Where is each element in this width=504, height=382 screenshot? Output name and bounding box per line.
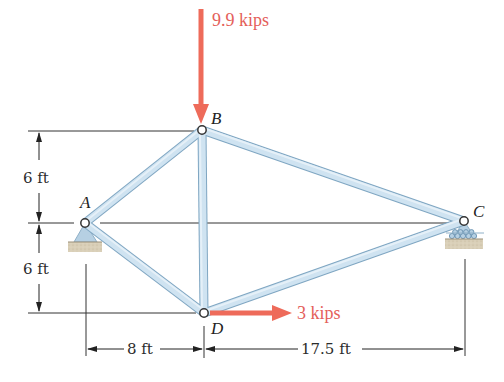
- member-ab: [85, 130, 202, 223]
- node-label-d: D: [210, 319, 224, 338]
- dim-label-vertical-upper: 6 ft: [23, 169, 49, 187]
- dim-label-horizontal-left: 8 ft: [127, 340, 153, 358]
- load-label-b: 9.9 kips: [212, 10, 269, 30]
- joint-d: [200, 309, 208, 317]
- node-label-a: A: [79, 193, 91, 212]
- node-label-c: C: [473, 202, 485, 221]
- member-bc: [202, 130, 464, 221]
- joint-a: [81, 219, 89, 227]
- dim-label-horizontal-right: 17.5 ft: [301, 340, 351, 358]
- dim-label-vertical-lower: 6 ft: [23, 260, 49, 278]
- member-dc: [204, 221, 464, 313]
- truss-diagram: 6 ft 6 ft 8 ft 17.5 ft: [0, 0, 504, 382]
- truss-members: [85, 128, 464, 313]
- load-label-d: 3 kips: [297, 303, 341, 323]
- load-arrow-b: [193, 9, 209, 124]
- member-ad: [85, 223, 204, 313]
- joint-b: [198, 126, 206, 134]
- joint-c: [460, 217, 468, 225]
- node-label-b: B: [211, 109, 222, 128]
